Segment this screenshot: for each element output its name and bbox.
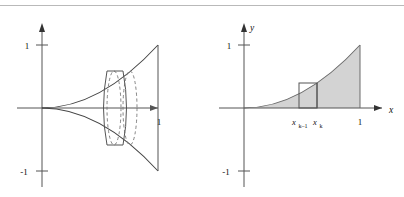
y-axis-arrowhead: [241, 23, 247, 32]
x-tick-label-one: 1: [157, 117, 162, 127]
x-tick-label-xk-minus-1: x k–1: [291, 117, 307, 129]
figure-root: 1 -1 1: [0, 0, 404, 197]
x-axis-arrowhead: [150, 105, 158, 111]
y-tick-label-one: 1: [227, 41, 232, 51]
xk-subscript: k: [320, 123, 323, 129]
x-tick-label-xk: x k: [312, 117, 322, 129]
y-tick-label-minus-one: -1: [20, 167, 28, 177]
lower-profile-curve: [42, 108, 158, 171]
xk-base: x: [312, 117, 317, 127]
xk-minus-1-base: x: [291, 117, 296, 127]
panel-solid-of-revolution: 1 -1 1: [0, 9, 202, 197]
panel-generating-region: 1 -1 y x x k–1 x k 1: [202, 9, 404, 197]
top-divider-rule: [0, 5, 404, 6]
shaded-area-under-curve: [244, 45, 360, 108]
x-tick-label-one: 1: [358, 117, 363, 127]
upper-profile-curve: [42, 45, 158, 108]
solid-of-revolution-svg: 1 -1 1: [0, 9, 202, 197]
x-axis-arrowhead: [374, 105, 382, 111]
y-tick-label-minus-one: -1: [222, 167, 230, 177]
y-axis-label: y: [249, 23, 255, 33]
x-axis-label: x: [388, 105, 394, 115]
xk-minus-1-subscript: k–1: [299, 123, 308, 129]
generating-region-svg: 1 -1 y x x k–1 x k 1: [202, 9, 404, 197]
y-tick-label-one: 1: [25, 41, 30, 51]
y-axis-arrowhead: [39, 23, 45, 32]
